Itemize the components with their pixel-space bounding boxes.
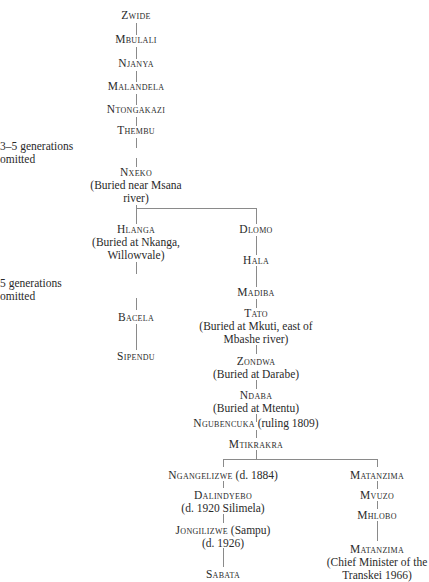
connector bbox=[136, 298, 137, 310]
branch-line bbox=[223, 459, 378, 460]
node-name: Bacela bbox=[118, 311, 154, 323]
node-malandela: Malandela bbox=[108, 80, 164, 93]
node-note: Willowvale) bbox=[92, 249, 180, 262]
node-name: Madiba bbox=[237, 286, 274, 298]
node-name: Zondwa bbox=[237, 355, 276, 367]
node-mbulali: Mbulali bbox=[115, 33, 157, 46]
connector bbox=[256, 208, 257, 224]
node-nxeko: Nxeko (Buried near Msana river) bbox=[90, 166, 181, 205]
node-name: Njanya bbox=[118, 57, 153, 69]
node-ngubencuka: Ngubencuka (ruling 1809) bbox=[193, 417, 318, 430]
node-name: Malandela bbox=[108, 80, 164, 92]
node-name: Dlomo bbox=[239, 223, 272, 235]
node-name: Mvuzo bbox=[360, 489, 394, 501]
node-note: (Buried at Mkuti, east of bbox=[199, 320, 312, 333]
node-note: (Buried at Mtentu) bbox=[213, 402, 299, 415]
node-matanzima: Matanzima bbox=[350, 469, 404, 482]
node-sabata: Sabata bbox=[206, 568, 240, 581]
node-name: Mhlobo bbox=[357, 509, 397, 521]
node-zondwa: Zondwa (Buried at Darabe) bbox=[213, 355, 299, 381]
node-suffix: (Sampu) bbox=[228, 524, 270, 536]
node-note: (Buried near Msana bbox=[90, 179, 181, 192]
node-name: Sipendu bbox=[117, 350, 155, 362]
node-zwide: Zwide bbox=[121, 9, 150, 22]
node-jongilizwe: Jongilizwe (Sampu) (d. 1926) bbox=[176, 524, 271, 550]
connector bbox=[136, 138, 137, 148]
note-line: 3–5 generations bbox=[0, 140, 73, 153]
node-name: Sabata bbox=[206, 568, 240, 580]
node-name: Dalindyebo bbox=[194, 489, 252, 501]
node-hala: Hala bbox=[243, 254, 269, 267]
node-name: Matanzima bbox=[350, 469, 404, 481]
node-note: Mbashe river) bbox=[199, 333, 312, 346]
node-name: Nxeko bbox=[120, 166, 152, 178]
node-note: river) bbox=[90, 192, 181, 205]
node-name: Ndaba bbox=[240, 389, 272, 401]
node-note: (Buried at Nkanga, bbox=[92, 236, 180, 249]
connector bbox=[136, 262, 137, 274]
node-note: (d. 1920 Silimela) bbox=[181, 502, 264, 515]
node-name: Jongilizwe bbox=[176, 524, 228, 536]
node-name: Hala bbox=[243, 254, 269, 266]
node-name: Tato bbox=[244, 307, 268, 319]
node-note: (Buried at Darabe) bbox=[213, 368, 299, 381]
connector bbox=[223, 548, 224, 567]
connector bbox=[223, 459, 224, 467]
node-madiba: Madiba bbox=[237, 286, 274, 299]
node-name: Hlanga bbox=[117, 223, 155, 235]
node-hlanga: Hlanga (Buried at Nkanga, Willowvale) bbox=[92, 223, 180, 262]
node-sipendu: Sipendu bbox=[117, 350, 155, 363]
node-note: Transkei 1966) bbox=[327, 569, 428, 582]
node-mtikrakra: Mtikrakra bbox=[229, 438, 283, 451]
connector bbox=[256, 450, 257, 459]
node-name: Thembu bbox=[117, 124, 155, 136]
node-suffix: (ruling 1809) bbox=[255, 417, 319, 429]
node-dalindyebo: Dalindyebo (d. 1920 Silimela) bbox=[181, 489, 264, 515]
node-bacela: Bacela bbox=[118, 311, 154, 324]
connector bbox=[256, 236, 257, 255]
node-thembu: Thembu bbox=[117, 124, 155, 137]
node-name: Mbulali bbox=[115, 33, 157, 45]
node-name: Ntongakazi bbox=[107, 103, 165, 115]
generations-omitted-note: 5 generations omitted bbox=[0, 277, 62, 303]
connector bbox=[256, 380, 257, 389]
node-mhlobo: Mhlobo bbox=[357, 509, 397, 522]
connector bbox=[377, 459, 378, 467]
node-ntongakazi: Ntongakazi bbox=[107, 103, 165, 116]
node-ngangelizwe: Ngangelizwe (d. 1884) bbox=[168, 469, 278, 482]
node-name: Ngangelizwe bbox=[168, 469, 232, 481]
connector bbox=[256, 345, 257, 354]
connector bbox=[223, 514, 224, 523]
node-dlomo: Dlomo bbox=[239, 223, 272, 236]
connector bbox=[136, 324, 137, 350]
connector bbox=[377, 481, 378, 489]
node-name: Ngubencuka bbox=[193, 417, 255, 429]
generations-omitted-note: 3–5 generations omitted bbox=[0, 140, 73, 166]
branch-line bbox=[136, 208, 257, 209]
node-name: Mtikrakra bbox=[229, 438, 283, 450]
node-tato: Tato (Buried at Mkuti, east of Mbashe ri… bbox=[199, 307, 312, 346]
connector bbox=[377, 521, 378, 541]
node-note: (d. 1926) bbox=[176, 537, 271, 550]
connector bbox=[223, 481, 224, 488]
node-mvuzo: Mvuzo bbox=[360, 489, 394, 502]
note-line: 5 generations bbox=[0, 277, 62, 290]
node-matanzima-chief-minister: Matanzima (Chief Minister of the Transke… bbox=[327, 543, 428, 582]
connector bbox=[377, 501, 378, 509]
node-suffix: (d. 1884) bbox=[233, 469, 278, 481]
node-note: (Chief Minister of the bbox=[327, 556, 428, 569]
node-name: Zwide bbox=[121, 9, 150, 21]
connector bbox=[256, 430, 257, 438]
note-line: omitted bbox=[0, 290, 62, 303]
connector bbox=[256, 266, 257, 287]
node-njanya: Njanya bbox=[118, 57, 153, 70]
node-name: Matanzima bbox=[350, 543, 404, 555]
note-line: omitted bbox=[0, 153, 73, 166]
node-ndaba: Ndaba (Buried at Mtentu) bbox=[213, 389, 299, 415]
